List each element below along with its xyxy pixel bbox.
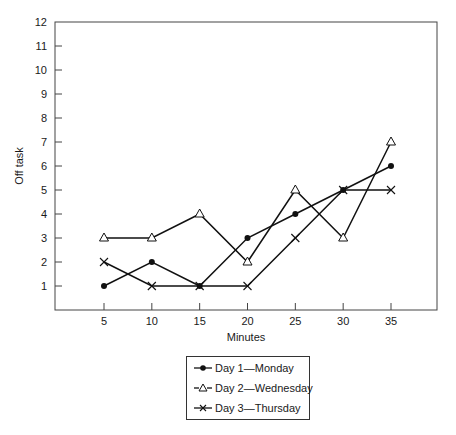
data-point xyxy=(195,209,204,217)
x-axis: 5101520253035 xyxy=(101,303,397,327)
data-point xyxy=(100,233,109,241)
y-tick-label: 4 xyxy=(41,208,47,220)
legend-item-day1: Day 1—Monday xyxy=(193,359,294,377)
y-tick-label: 10 xyxy=(35,64,47,76)
series-1 xyxy=(101,163,394,289)
data-point xyxy=(101,283,107,289)
y-tick-label: 3 xyxy=(41,232,47,244)
x-axis-label: Minutes xyxy=(227,331,266,343)
x-tick-label: 35 xyxy=(385,315,397,327)
data-point xyxy=(245,235,251,241)
y-axis: 123456789101112 xyxy=(35,16,62,292)
data-point xyxy=(291,185,300,193)
x-tick-label: 20 xyxy=(241,315,253,327)
y-tick-label: 12 xyxy=(35,16,47,28)
data-point xyxy=(387,137,396,145)
y-axis-label: Off task xyxy=(13,147,25,185)
legend-label: Day 1—Monday xyxy=(215,362,294,374)
legend-item-day3: Day 3—Thursday xyxy=(193,399,301,417)
x-marker-icon xyxy=(193,403,213,413)
legend-item-day2: Day 2—Wednesday xyxy=(193,379,313,397)
x-tick-label: 25 xyxy=(289,315,301,327)
legend-label: Day 2—Wednesday xyxy=(215,382,313,394)
data-point xyxy=(388,163,394,169)
y-tick-label: 9 xyxy=(41,88,47,100)
x-tick-label: 30 xyxy=(337,315,349,327)
filled-circle-marker-icon xyxy=(193,363,213,373)
series-2 xyxy=(100,137,396,265)
x-tick-label: 10 xyxy=(146,315,158,327)
y-tick-label: 5 xyxy=(41,184,47,196)
chart-legend: Day 1—Monday Day 2—Wednesday Day 3—Thurs… xyxy=(186,356,310,420)
y-tick-label: 7 xyxy=(41,136,47,148)
y-tick-label: 1 xyxy=(41,280,47,292)
data-point xyxy=(292,211,298,217)
x-tick-label: 15 xyxy=(194,315,206,327)
y-tick-label: 6 xyxy=(41,160,47,172)
series-layer xyxy=(100,137,396,290)
data-point xyxy=(149,259,155,265)
open-triangle-marker-icon xyxy=(193,383,213,393)
x-tick-label: 5 xyxy=(101,315,107,327)
y-tick-label: 11 xyxy=(36,40,47,52)
y-tick-label: 2 xyxy=(41,256,47,268)
legend-label: Day 3—Thursday xyxy=(215,402,301,414)
y-tick-label: 8 xyxy=(41,112,47,124)
